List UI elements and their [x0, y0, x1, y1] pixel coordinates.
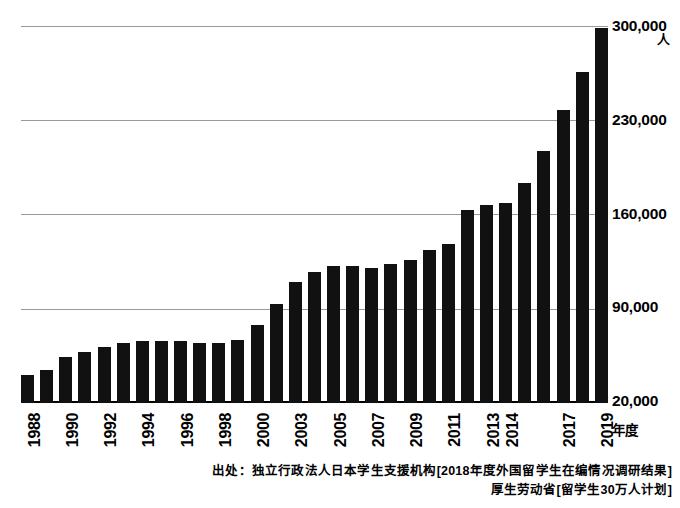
bar-chart-figure: 人 300,000230,000160,00090,00020,000 1988…: [0, 0, 680, 508]
bar-series: [21, 26, 608, 403]
source-line-1: 出处：独立行政法人日本学生支援机构[2018年度外国留学生在编情况调研结果]: [0, 462, 672, 481]
x-tick-label: 2009: [410, 413, 423, 447]
bar: [557, 110, 570, 403]
bar: [98, 347, 111, 403]
x-tick: [231, 406, 244, 462]
bar: [21, 375, 34, 403]
bar: [270, 304, 283, 403]
bar: [136, 341, 149, 403]
bar: [461, 210, 474, 403]
bar: [231, 340, 244, 403]
x-tick: 2014: [499, 406, 512, 462]
x-tick: 2007: [365, 406, 378, 462]
y-tick-label: 90,000: [612, 299, 658, 315]
bar: [327, 266, 340, 403]
y-tick-label: 230,000: [612, 112, 667, 128]
x-tick: [308, 406, 321, 462]
bar: [404, 260, 417, 403]
x-tick: 2013: [480, 406, 493, 462]
x-tick-label: 2011: [448, 413, 461, 447]
x-tick-label: 1992: [104, 413, 117, 447]
y-tick-label: 160,000: [612, 206, 667, 222]
source-line-2: 厚生劳动省[留学生30万人计划]: [0, 481, 672, 500]
y-axis-unit-label: 人: [657, 33, 670, 46]
x-tick: 1990: [59, 406, 72, 462]
bar: [365, 268, 378, 403]
bar: [289, 282, 302, 403]
y-axis: 人 300,000230,000160,00090,00020,000: [612, 0, 680, 440]
x-tick: 1992: [98, 406, 111, 462]
y-tick-label: 300,000: [612, 18, 667, 34]
bar: [59, 357, 72, 403]
x-tick-label: 2003: [295, 413, 308, 447]
x-tick-label: 1988: [28, 413, 41, 447]
x-tick: 2009: [404, 406, 417, 462]
x-tick: [518, 406, 531, 462]
x-tick-label: 2005: [334, 413, 347, 447]
bar: [78, 352, 91, 403]
x-tick-label: 2017: [563, 413, 576, 447]
x-tick-label: 2007: [372, 413, 385, 447]
x-tick: 2019: [595, 406, 608, 462]
x-tick: 1988: [21, 406, 34, 462]
x-tick: 2003: [289, 406, 302, 462]
bar: [308, 272, 321, 403]
bar: [442, 244, 455, 403]
bar: [251, 325, 264, 403]
x-tick-label: 1998: [219, 413, 232, 447]
bar: [423, 250, 436, 403]
bar: [576, 72, 589, 403]
x-tick: [78, 406, 91, 462]
x-tick: [155, 406, 168, 462]
bar: [193, 343, 206, 403]
x-tick: [270, 406, 283, 462]
bar: [40, 370, 53, 403]
bar: [518, 183, 531, 403]
x-tick: 2011: [442, 406, 455, 462]
bar: [499, 203, 512, 403]
x-tick: [576, 406, 589, 462]
x-tick: 2017: [557, 406, 570, 462]
bar: [384, 264, 397, 403]
x-tick-label: 1994: [142, 413, 155, 447]
bar: [212, 343, 225, 403]
x-tick: [423, 406, 436, 462]
x-tick-label: 1990: [66, 413, 79, 447]
bar: [346, 266, 359, 403]
bar: [117, 343, 130, 403]
x-tick: [461, 406, 474, 462]
bar: [595, 28, 608, 403]
plot-area: [21, 26, 608, 403]
bar: [174, 341, 187, 403]
x-tick: 1998: [212, 406, 225, 462]
bar: [155, 341, 168, 403]
x-tick: [40, 406, 53, 462]
x-tick: [193, 406, 206, 462]
x-axis: 1988199019921994199619982000200320052007…: [21, 406, 608, 462]
bar: [480, 205, 493, 403]
x-tick: [537, 406, 550, 462]
x-tick-label: 2013: [487, 413, 500, 447]
y-tick-label: 20,000: [612, 393, 658, 409]
bar: [537, 151, 550, 403]
x-tick-label: 2000: [257, 413, 270, 447]
x-axis-unit-label: 年度: [612, 424, 638, 438]
source-caption: 出处：独立行政法人日本学生支援机构[2018年度外国留学生在编情况调研结果] 厚…: [0, 462, 672, 500]
x-tick: 1994: [136, 406, 149, 462]
x-tick: 2005: [327, 406, 340, 462]
x-tick-label: 2014: [506, 413, 519, 447]
x-tick: 1996: [174, 406, 187, 462]
x-tick: [384, 406, 397, 462]
x-tick: [346, 406, 359, 462]
x-tick: [117, 406, 130, 462]
x-tick-label: 1996: [181, 413, 194, 447]
x-tick: 2000: [251, 406, 264, 462]
